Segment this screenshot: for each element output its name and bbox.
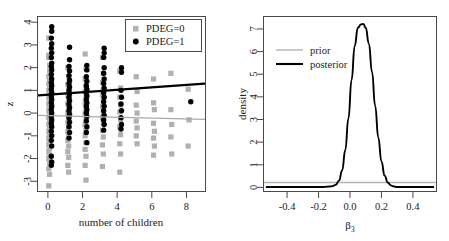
left-x-tick-label: 2 (80, 201, 85, 212)
scatter-point-pdeg0 (66, 155, 71, 160)
legend-label-prior: prior (310, 45, 331, 56)
scatter-point-pdeg1 (49, 55, 54, 60)
scatter-point-pdeg0 (186, 87, 191, 92)
right-y-tick-label: 0 (248, 185, 259, 190)
scatter-point-pdeg0 (83, 154, 88, 159)
scatter-point-pdeg1 (101, 55, 106, 60)
scatter-point-pdeg1 (49, 138, 54, 143)
legend-label-pdeg0: PDEG=0 (146, 23, 185, 34)
scatter-point-pdeg0 (118, 151, 123, 156)
scatter-point-pdeg1 (101, 50, 106, 55)
right-y-axis: 01234567 (248, 26, 264, 190)
scatter-point-pdeg0 (151, 153, 156, 158)
scatter-point-pdeg0 (100, 142, 105, 147)
scatter-point-pdeg1 (101, 108, 106, 113)
scatter-point-pdeg1 (67, 44, 72, 49)
legend-label-posterior: posterior (310, 59, 348, 70)
left-x-tick-label: 4 (115, 201, 121, 212)
scatter-point-pdeg1 (49, 35, 54, 40)
scatter-point-pdeg0 (47, 172, 52, 177)
scatter-point-pdeg1 (101, 127, 106, 132)
left-y-tick-label: 3 (22, 42, 33, 47)
scatter-point-pdeg1 (119, 108, 124, 113)
scatter-point-pdeg0 (134, 133, 139, 138)
scatter-point-pdeg0 (83, 163, 88, 168)
scatter-point-pdeg0 (134, 110, 139, 115)
scatter-point-pdeg1 (101, 71, 106, 76)
scatter-point-pdeg0 (66, 170, 71, 175)
right-x-tick-label: -0.4 (279, 201, 296, 212)
scatter-point-pdeg0 (117, 141, 122, 146)
scatter-point-pdeg1 (118, 126, 123, 131)
scatter-point-pdeg0 (134, 141, 139, 146)
scatter-point-pdeg1 (84, 140, 89, 145)
scatter-point-pdeg1 (66, 73, 71, 78)
right-y-tick-label: 7 (248, 26, 259, 31)
figure-svg: -3-2-101234 02468 number of children z P… (0, 0, 449, 241)
left-legend[interactable]: PDEG=0 PDEG=1 (126, 20, 202, 52)
scatter-point-pdeg0 (83, 147, 88, 152)
scatter-point-pdeg1 (49, 143, 54, 148)
scatter-point-pdeg1 (101, 117, 106, 122)
left-x-tick-label: 6 (149, 201, 154, 212)
scatter-point-pdeg1 (49, 154, 54, 159)
left-y-tick-label: -3 (22, 177, 33, 186)
right-y-axis-title: density (236, 88, 248, 120)
right-legend[interactable]: prior posterior (276, 45, 348, 70)
scatter-point-pdeg1 (67, 130, 72, 135)
left-y-axis-title: z (3, 101, 15, 106)
scatter-point-pdeg1 (84, 124, 89, 129)
scatter-point-pdeg0 (101, 134, 106, 139)
scatter-point-pdeg0 (117, 170, 122, 175)
right-x-axis-title: β3 (345, 219, 355, 234)
scatter-point-pdeg1 (101, 104, 106, 109)
scatter-point-pdeg1 (66, 135, 71, 140)
beta-subscript: 3 (351, 225, 355, 234)
scatter-point-pdeg1 (119, 69, 124, 74)
scatter-point-pdeg0 (134, 74, 139, 79)
scatter-point-pdeg0 (152, 107, 157, 112)
left-x-axis-title: number of children (79, 216, 164, 228)
scatter-point-pdeg0 (83, 51, 88, 56)
scatter-point-pdeg1 (49, 163, 54, 168)
legend-marker-pdeg0-icon (133, 26, 139, 32)
left-y-tick-label: -2 (22, 154, 33, 163)
left-y-tick-label: -1 (22, 131, 33, 140)
scatter-point-pdeg1 (101, 76, 106, 81)
scatter-point-pdeg1 (66, 64, 71, 69)
scatter-point-pdeg0 (100, 164, 105, 169)
scatter-point-pdeg1 (84, 67, 89, 72)
scatter-point-pdeg0 (118, 132, 123, 137)
scatter-point-pdeg0 (186, 143, 191, 148)
scatter-point-pdeg0 (101, 151, 106, 156)
scatter-point-pdeg0 (152, 143, 157, 148)
scatter-point-pdeg1 (49, 29, 54, 34)
scatter-point-pdeg1 (84, 130, 89, 135)
scatter-point-pdeg0 (46, 183, 51, 188)
scatter-point-pdeg0 (151, 135, 156, 140)
left-y-tick-label: 0 (22, 110, 33, 115)
scatter-point-pdeg1 (101, 81, 106, 86)
right-x-tick-label: -0.2 (310, 201, 327, 212)
left-panel-scatter: -3-2-101234 02468 number of children z P… (3, 17, 206, 229)
scatter-point-pdeg1 (188, 99, 193, 104)
scatter-point-pdeg1 (66, 124, 71, 129)
scatter-point-pdeg0 (134, 103, 139, 108)
scatter-point-pdeg1 (119, 94, 124, 99)
scatter-point-pdeg1 (84, 79, 89, 84)
scatter-point-pdeg0 (83, 178, 88, 183)
scatter-point-pdeg0 (152, 129, 157, 134)
left-y-tick-label: 2 (22, 65, 33, 70)
right-y-tick-label: 3 (248, 117, 259, 122)
scatter-point-pdeg1 (101, 122, 106, 127)
scatter-point-pdeg1 (101, 94, 106, 99)
left-y-tick-label: 4 (22, 19, 33, 25)
scatter-point-pdeg1 (101, 65, 106, 70)
scatter-point-pdeg1 (119, 122, 124, 127)
right-x-tick-label: 0.4 (406, 201, 420, 212)
right-y-tick-label: 1 (248, 162, 259, 167)
right-panel-density: 01234567 -0.4-0.20.00.20.4 β3 density pr… (236, 17, 437, 235)
scatter-point-pdeg0 (168, 134, 173, 139)
scatter-point-pdeg1 (84, 74, 89, 79)
scatter-point-pdeg0 (134, 118, 139, 123)
